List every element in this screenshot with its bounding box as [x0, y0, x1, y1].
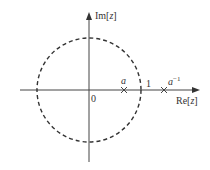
real-axis-arrow-icon	[192, 87, 200, 93]
imag-axis-arrow-icon	[86, 12, 92, 20]
imag-label-suffix: ]	[113, 10, 116, 21]
real-label-prefix: Re[	[176, 95, 190, 106]
pole-a-inverse-exponent: −1	[173, 75, 180, 83]
pole-a-label: a	[121, 76, 126, 86]
z-plane-diagram: Im[z] Re[z] 0 1 a a−1	[0, 0, 210, 170]
unit-circle-radius-label: 1	[146, 79, 151, 89]
pole-a-inverse-label: a−1	[168, 76, 180, 87]
real-axis-label: Re[z]	[176, 96, 198, 106]
imag-label-prefix: Im[	[95, 10, 109, 21]
real-label-suffix: ]	[194, 95, 197, 106]
imag-axis-label: Im[z]	[95, 11, 117, 21]
origin-label: 0	[91, 94, 96, 104]
